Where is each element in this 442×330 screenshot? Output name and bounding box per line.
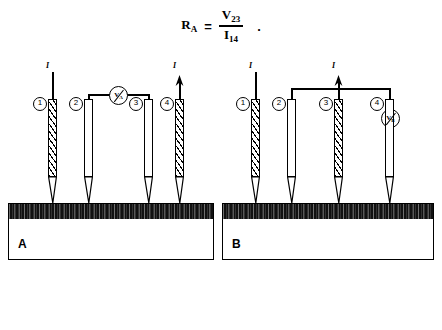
probe-b-2-tip xyxy=(287,177,296,203)
formula-numerator-subscript: 23 xyxy=(231,14,240,24)
probe-b-4-shaft xyxy=(385,99,394,177)
probe-b-3-shaft xyxy=(334,99,343,177)
probe-a-1: 1 xyxy=(48,99,57,203)
probe-a-4: 4 xyxy=(175,99,184,203)
probe-a-3-number: 3 xyxy=(129,97,143,111)
panel-b: I I VB 1 xyxy=(222,60,434,318)
probe-b-4-number: 4 xyxy=(370,97,384,111)
probe-b-2-shaft xyxy=(287,99,296,177)
wire-a-meter-left-top xyxy=(88,94,110,96)
arrow-up-a-probe4 xyxy=(175,72,184,83)
formula-fraction: V23 I14 xyxy=(219,8,243,44)
four-point-probe-figure: RA = V23 I14 . I VA I xyxy=(0,0,442,330)
formula-lhs-symbol: R xyxy=(181,17,190,32)
panel-a-label: A xyxy=(18,237,27,251)
voltmeter-a-label: VA xyxy=(114,92,123,100)
probe-a-2-shaft xyxy=(84,99,93,177)
probe-b-4-tip xyxy=(385,177,394,203)
panel-b-stage: I I VB 1 xyxy=(222,60,434,260)
formula-lhs: RA xyxy=(181,18,197,34)
current-label-a-in: I xyxy=(46,61,49,70)
probe-b-2-number: 2 xyxy=(272,97,286,111)
probe-a-4-tip xyxy=(175,177,184,203)
substrate-block-a: A xyxy=(8,203,214,260)
current-label-b-in: I xyxy=(249,61,252,70)
arrow-up-b-probe3 xyxy=(334,72,343,83)
probe-a-4-shaft xyxy=(175,99,184,177)
wire-a-meter-right-top xyxy=(127,94,149,96)
probe-a-3-tip xyxy=(144,177,153,203)
formula-numerator-symbol: V xyxy=(222,7,231,22)
current-label-a-out: I xyxy=(173,61,176,70)
formula-trailing-period: . xyxy=(257,20,261,33)
wire-b-voltage-bus xyxy=(291,88,391,90)
formula-equals: = xyxy=(204,20,212,33)
probe-b-3-number: 3 xyxy=(319,97,333,111)
voltmeter-a: VA xyxy=(109,86,128,105)
probe-a-3: 3 xyxy=(144,99,153,203)
thin-film-layer-b xyxy=(223,204,433,219)
formula-denominator: I14 xyxy=(221,27,241,44)
probe-b-3-tip xyxy=(334,177,343,203)
probe-a-2-number: 2 xyxy=(69,97,83,111)
voltmeter-b-label: VB xyxy=(386,115,394,123)
probe-a-1-tip xyxy=(48,177,57,203)
probe-b-1-number: 1 xyxy=(236,97,250,111)
probe-b-1-shaft xyxy=(251,99,260,177)
probe-b-1-tip xyxy=(251,177,260,203)
probe-a-2-tip xyxy=(84,177,93,203)
probe-a-1-shaft xyxy=(48,99,57,177)
formula-numerator: V23 xyxy=(219,8,243,25)
resistance-formula: RA = V23 I14 . xyxy=(0,8,442,44)
probe-a-4-number: 4 xyxy=(160,97,174,111)
probe-a-3-shaft xyxy=(144,99,153,177)
formula-lhs-subscript: A xyxy=(191,24,198,34)
substrate-block-b: B xyxy=(222,203,434,260)
probe-b-3: 3 xyxy=(334,99,343,203)
probe-a-1-number: 1 xyxy=(33,97,47,111)
formula-denominator-subscript: 14 xyxy=(229,34,238,44)
current-label-b-out: I xyxy=(332,61,335,70)
probe-b-1: 1 xyxy=(251,99,260,203)
panel-a-stage: I VA I 1 xyxy=(8,60,214,260)
panel-a: I VA I 1 xyxy=(8,60,214,318)
probe-b-2: 2 xyxy=(287,99,296,203)
probe-a-2: 2 xyxy=(84,99,93,203)
panel-b-label: B xyxy=(232,237,241,251)
thin-film-layer-a xyxy=(9,204,213,219)
